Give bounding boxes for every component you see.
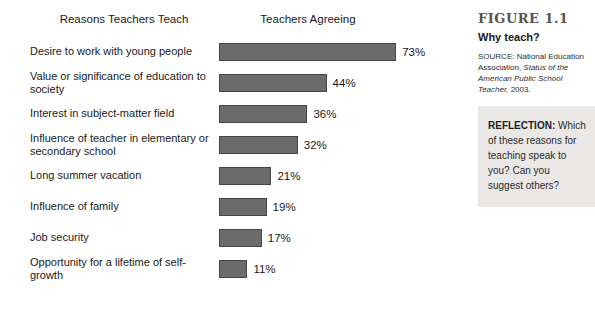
chart-column-header-agreeing: Teachers Agreeing <box>219 13 397 25</box>
chart-column-header-reasons: Reasons Teachers Teach <box>30 13 218 25</box>
bar-area: 44% <box>219 74 460 92</box>
bar-value-label: 21% <box>277 170 300 182</box>
bar <box>219 229 262 247</box>
figure-number: FIGURE 1.1 <box>478 11 595 26</box>
chart-row: Influence of family19% <box>30 191 460 222</box>
bar-value-label: 73% <box>402 46 425 58</box>
bar-area: 17% <box>219 229 460 247</box>
category-label: Influence of teacher in elementary or se… <box>30 132 219 158</box>
figure-title: Why teach? <box>478 31 595 43</box>
bar-value-label: 44% <box>333 77 356 89</box>
figure-sidebar: FIGURE 1.1 Why teach? SOURCE: National E… <box>478 11 595 207</box>
bar <box>219 136 298 154</box>
category-label: Job security <box>30 231 219 244</box>
chart-row: Influence of teacher in elementary or se… <box>30 129 460 160</box>
bar <box>219 105 307 123</box>
chart-row: Job security17% <box>30 222 460 253</box>
figure-page: Reasons Teachers Teach Teachers Agreeing… <box>0 0 595 326</box>
bar <box>219 74 327 92</box>
category-label: Long summer vacation <box>30 169 219 182</box>
bar-value-label: 19% <box>273 201 296 213</box>
reflection-box: REFLECTION: Which of these reasons for t… <box>478 106 595 207</box>
bar <box>219 260 247 278</box>
bar-area: 19% <box>219 198 460 216</box>
reflection-label: REFLECTION: <box>488 120 555 131</box>
figure-source: SOURCE: National Education Association, … <box>478 51 592 95</box>
category-label: Influence of family <box>30 200 219 213</box>
category-label: Interest in subject-matter field <box>30 107 219 120</box>
chart-row: Long summer vacation21% <box>30 160 460 191</box>
bar <box>219 198 267 216</box>
bar-value-label: 36% <box>313 108 336 120</box>
category-label: Value or significance of education to so… <box>30 70 219 96</box>
bar-area: 11% <box>219 260 460 278</box>
category-label: Opportunity for a lifetime of self-growt… <box>30 256 219 282</box>
bar <box>219 167 271 185</box>
bar-area: 36% <box>219 105 460 123</box>
bar-rows: Desire to work with young people73%Value… <box>30 36 460 284</box>
chart-row: Desire to work with young people73% <box>30 36 460 67</box>
category-label: Desire to work with young people <box>30 45 219 58</box>
source-year: 2003. <box>508 85 530 94</box>
bar-area: 32% <box>219 136 460 154</box>
bar-value-label: 17% <box>268 232 291 244</box>
bar-area: 73% <box>219 43 460 61</box>
bar-value-label: 11% <box>253 263 275 275</box>
bar-value-label: 32% <box>304 139 327 151</box>
bar-area: 21% <box>219 167 460 185</box>
bar <box>219 43 396 61</box>
chart-row: Interest in subject-matter field36% <box>30 98 460 129</box>
chart-row: Value or significance of education to so… <box>30 67 460 98</box>
chart-row: Opportunity for a lifetime of self-growt… <box>30 253 460 284</box>
